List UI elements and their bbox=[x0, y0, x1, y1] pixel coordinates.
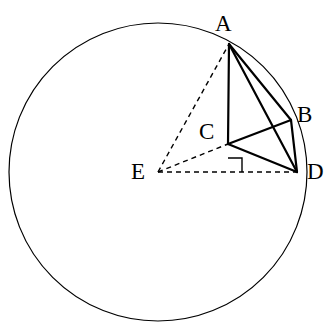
point-label-b: B bbox=[297, 103, 312, 126]
point-label-c: C bbox=[199, 120, 214, 143]
point-label-d: D bbox=[307, 160, 324, 183]
right-angle-marker-at-c bbox=[228, 158, 242, 172]
segment-a-d bbox=[229, 44, 297, 172]
geometry-canvas bbox=[0, 0, 334, 330]
segment-e-a bbox=[158, 44, 229, 172]
point-label-e: E bbox=[131, 160, 145, 183]
segment-a-c bbox=[228, 44, 229, 144]
segment-c-b bbox=[228, 120, 291, 144]
geometry-figure: A B C D E bbox=[0, 0, 334, 330]
segment-e-c bbox=[158, 144, 228, 172]
segment-a-b bbox=[229, 44, 291, 120]
point-label-a: A bbox=[215, 12, 232, 35]
solid-segments bbox=[228, 44, 297, 172]
